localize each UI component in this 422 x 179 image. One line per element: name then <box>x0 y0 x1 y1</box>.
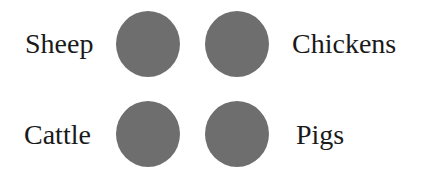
circle-sheep <box>116 11 180 77</box>
label-cattle: Cattle <box>24 121 91 149</box>
circle-cattle <box>116 101 180 167</box>
label-sheep: Sheep <box>25 30 93 58</box>
label-chickens: Chickens <box>292 30 396 58</box>
label-pigs: Pigs <box>296 121 344 149</box>
circle-chickens <box>205 11 269 77</box>
circle-pigs <box>205 101 269 167</box>
